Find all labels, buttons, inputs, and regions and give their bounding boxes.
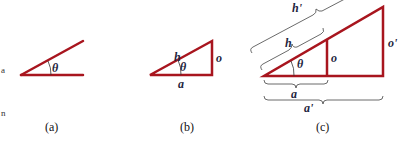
opposite-label: o	[331, 52, 337, 64]
edge-text: a	[1, 66, 5, 75]
figure-canvas	[0, 0, 407, 145]
adjacent-label: a	[291, 88, 297, 100]
panel-caption: (c)	[316, 121, 329, 133]
big-opposite-label: o'	[388, 37, 397, 49]
angle-label: θ	[52, 62, 58, 74]
angle-arc-icon	[291, 61, 294, 76]
panel-c-similar-triangles	[251, 0, 383, 104]
edge-text: n	[1, 109, 6, 118]
brace-big-adjacent-icon	[264, 96, 383, 104]
panel-caption: (a)	[45, 121, 58, 133]
large-triangle	[264, 7, 383, 76]
brace-big-hypotenuse-icon	[251, 0, 379, 53]
panel-caption: (b)	[180, 121, 194, 133]
angle-arc-icon	[48, 61, 51, 75]
big-adjacent-label: a'	[304, 102, 313, 114]
angle-label: θ	[297, 58, 303, 70]
adjacent-label: a	[178, 78, 184, 90]
angle-label: θ	[180, 61, 186, 73]
hypotenuse-label: h	[285, 37, 292, 49]
big-hypotenuse-label: h'	[292, 2, 302, 14]
opposite-label: o	[216, 52, 222, 64]
